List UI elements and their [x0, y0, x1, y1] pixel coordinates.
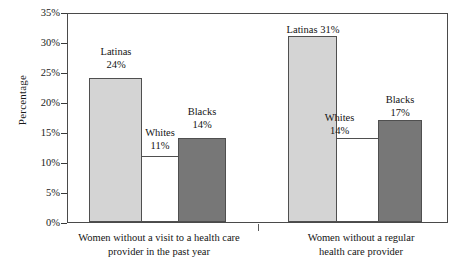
- y-axis-tick-labels: 35% 30% 25% 20% 15% 10% 5% 0%: [26, 0, 60, 271]
- bar-label-group2-blacks-value: 17%: [368, 107, 432, 120]
- x-axis-caption-group1-line1: Women without a visit to a health care: [56, 231, 262, 245]
- bar-group1-whites: [141, 156, 179, 222]
- y-tick-label-10: 10%: [26, 158, 60, 168]
- bar-label-group2-whites: Whites 14%: [307, 112, 372, 137]
- x-axis-caption-group2-line2: health care provider: [267, 245, 455, 259]
- x-axis-caption-group1-line2: provider in the past year: [56, 245, 262, 259]
- y-tick-label-25: 25%: [26, 68, 60, 78]
- y-tick-label-20: 20%: [26, 98, 60, 108]
- bar-group2-whites: [336, 138, 379, 222]
- bar-label-group2-whites-name: Whites: [307, 112, 372, 125]
- bar-label-group1-latinas-name: Latinas: [73, 46, 159, 59]
- bar-label-group1-blacks-value: 14%: [171, 119, 233, 132]
- bar-label-group2-blacks: Blacks 17%: [368, 94, 432, 119]
- y-tick-label-30: 30%: [26, 38, 60, 48]
- bar-label-group1-whites-value: 11%: [128, 140, 192, 153]
- y-tick-label-5: 5%: [26, 188, 60, 198]
- x-axis-group-separator-tick: [258, 224, 259, 231]
- bar-label-group1-blacks-name: Blacks: [171, 106, 233, 119]
- x-axis-caption-group2: Women without a regular health care prov…: [267, 231, 455, 258]
- bar-label-group2-blacks-name: Blacks: [368, 94, 432, 107]
- y-tick-label-15: 15%: [26, 128, 60, 138]
- bar-label-group2-whites-value: 14%: [307, 125, 372, 138]
- y-tick-label-0: 0%: [26, 218, 60, 228]
- x-axis-caption-group2-line1: Women without a regular: [267, 231, 455, 245]
- bar-label-group1-blacks: Blacks 14%: [171, 106, 233, 131]
- bar-label-group1-latinas: Latinas 24%: [73, 46, 159, 71]
- bar-label-group2-latinas-name: Latinas 31%: [268, 24, 358, 37]
- bar-label-group2-latinas: Latinas 31%: [268, 24, 358, 37]
- bar-group2-blacks: [378, 120, 422, 222]
- y-tick-mark-0: [61, 223, 67, 224]
- y-tick-label-35: 35%: [26, 8, 60, 18]
- x-axis-caption-group1: Women without a visit to a health care p…: [56, 231, 262, 258]
- bar-label-group1-latinas-value: 24%: [73, 59, 159, 72]
- bar-chart: Percentage 35% 30% 25% 20% 15% 10% 5% 0%…: [0, 0, 468, 271]
